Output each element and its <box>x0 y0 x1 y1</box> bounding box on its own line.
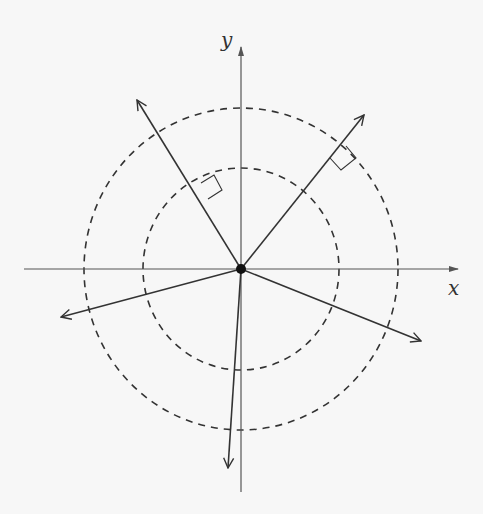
vector-se <box>241 269 421 341</box>
vector-nw <box>137 100 241 269</box>
vector-ne <box>241 115 364 269</box>
y-axis-label: y <box>221 28 232 52</box>
x-axis-label: x <box>448 276 459 300</box>
vector-s <box>228 269 241 468</box>
right-angle-nw <box>201 175 222 199</box>
diagram-graphic <box>0 0 483 514</box>
vector-w <box>61 269 241 317</box>
right-angle-ne <box>330 146 356 170</box>
vector-diagram: x y <box>0 0 483 514</box>
origin-point <box>236 264 246 274</box>
